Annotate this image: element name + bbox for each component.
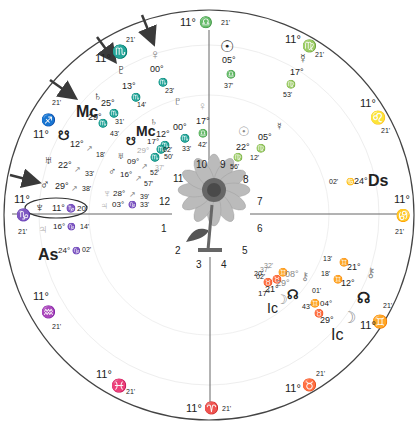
cusp-taurus: 11° ♉ 21' [285,370,325,394]
svg-text:♃: ♃ [100,199,108,211]
svg-text:♑: ♑ [128,200,137,209]
svg-text:11°: 11° [285,33,301,45]
svg-text:57': 57' [144,180,153,187]
svg-text:21': 21' [126,388,135,395]
svg-text:♀: ♀ [198,99,207,113]
svg-text:♏: ♏ [158,77,168,87]
svg-text:13': 13' [323,255,332,262]
svg-text:17°: 17° [258,289,270,298]
svg-text:39': 39' [140,193,149,200]
svg-text:♅: ♅ [117,150,125,161]
svg-text:03°: 03° [112,200,124,209]
svg-text:☉: ☉ [238,124,250,139]
cusp-capricorn: 11° ♑ 21' [14,193,31,235]
astrology-chart: 11° ♎ 21' 11° ♍ 21' 11° ♌ 21' 11° ♋ 21' … [0,0,418,428]
svg-text:21': 21' [18,228,27,235]
svg-text:56': 56' [230,163,239,170]
svg-text:♎: ♎ [198,128,208,138]
svg-text:Ic: Ic [331,326,343,343]
svg-text:↗: ↗ [129,190,136,199]
svg-text:♂: ♂ [108,165,116,177]
svg-text:3: 3 [196,259,202,270]
svg-text:17°: 17° [290,67,304,77]
svg-text:↗: ↗ [74,165,81,174]
svg-text:33': 33' [182,145,191,152]
svg-text:18': 18' [321,270,330,277]
svg-text:21': 21' [316,370,325,377]
natal-descendant: 02' ♋ 24° Ds [329,172,389,189]
svg-text:17°: 17° [196,116,210,126]
svg-text:Ds: Ds [368,172,389,189]
svg-text:28°: 28° [113,189,125,198]
natal-venus: ♀ 00° ♏ 23' [150,46,174,94]
natal-mars: ♂ 29° ↗ 38' [40,177,91,193]
transit-sun: ☉ 22° ♍ 56' [230,124,250,170]
svg-text:21': 21' [52,323,61,330]
svg-text:12: 12 [159,196,171,207]
svg-text:11°: 11° [14,193,30,205]
svg-text:33': 33' [85,170,94,177]
svg-text:24°: 24° [354,176,368,186]
svg-text:Ic: Ic [267,300,278,316]
svg-text:53': 53' [283,91,292,98]
svg-text:♓: ♓ [111,378,127,393]
svg-text:29°: 29° [137,146,149,155]
svg-text:11°: 11° [33,290,49,302]
svg-text:♇: ♇ [173,94,182,108]
svg-text:21': 21' [315,51,324,58]
svg-text:↗: ↗ [135,174,142,183]
svg-text:18': 18' [96,151,105,158]
svg-text:7: 7 [257,196,263,207]
natal-jupiter: ♃ 16° ♑ 14' [38,221,89,236]
svg-text:☋: ☋ [58,128,70,143]
svg-text:02': 02' [82,246,91,253]
svg-text:11°: 11° [285,382,301,394]
svg-text:♑: ♑ [66,203,76,213]
svg-text:4: 4 [221,259,227,270]
svg-text:04°: 04° [320,299,332,308]
svg-text:♑: ♑ [72,246,81,255]
svg-text:21': 21' [126,36,135,43]
svg-text:22°: 22° [58,160,72,170]
svg-text:29°: 29° [55,181,69,191]
natal-pluto: ♇ 13° ♏ 14' [116,61,146,108]
svg-text:♆: ♆ [103,187,111,199]
cusp-aquarius: 11° ♒ 21' [33,290,61,330]
svg-text:♂: ♂ [40,177,50,192]
svg-text:☿: ☿ [298,51,308,66]
svg-text:♏: ♏ [112,44,128,59]
svg-text:38': 38' [82,185,91,192]
cusp-sagittarius: 11° ♐ 21' [33,99,61,140]
svg-text:↗: ↗ [71,184,78,193]
svg-text:00°: 00° [150,64,164,74]
svg-text:21': 21' [395,228,404,235]
svg-text:♅: ♅ [44,153,53,167]
svg-text:14': 14' [137,101,146,108]
svg-text:02': 02' [163,146,172,153]
svg-text:1: 1 [161,223,167,234]
svg-text:02': 02' [256,273,265,280]
svg-text:☋: ☋ [126,135,136,147]
svg-text:29°: 29° [320,315,334,325]
svg-text:00°: 00° [173,122,187,132]
svg-text:43': 43' [110,130,119,137]
natal-chiron: 13' ♊ 21° ⚷ [323,255,376,280]
natal-ascendant: As 24° ♑ 02' [38,246,91,263]
svg-text:50': 50' [164,153,173,160]
transit-pluto: ♇ 00° ♏ 33' [173,94,191,152]
svg-text:33': 33' [140,201,149,208]
svg-text:♍: ♍ [256,143,266,153]
svg-text:21°: 21° [347,262,361,272]
natal-uranus: ♅ 22° ↗ 33' [44,153,94,177]
arrow-mc [50,80,74,97]
svg-text:⚷: ⚷ [366,265,376,280]
svg-text:52': 52' [150,169,159,176]
transit-neptune: ♆ 28° ↗ 39' [103,187,149,200]
cusp-aries: 11° ♈ 21' [186,401,231,415]
arrow-mars [10,175,37,182]
transit-venus: ♀ 17° ♎ 42' [196,99,210,148]
svg-text:♎: ♎ [226,69,236,79]
svg-text:♒: ♒ [41,305,56,319]
svg-text:13°: 13° [122,81,136,91]
svg-text:05°: 05° [222,55,236,65]
